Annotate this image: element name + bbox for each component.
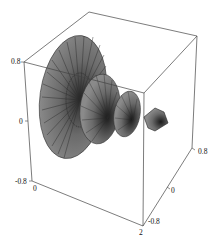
y-axis-label-mid: 0 (171, 186, 175, 195)
y-axis-label-top: 0.8 (198, 147, 208, 156)
y-axis-label-bottom: -0.8 (148, 217, 160, 226)
surface-discs (32, 31, 168, 163)
z-axis-label-bottom: -0.8 (15, 177, 27, 186)
x-axis-label-start: 0 (33, 184, 37, 193)
surface-plot-3d[interactable]: 0.8 0 -0.8 0 2 0.8 0 -0.8 (0, 0, 215, 239)
disc-4 (144, 108, 168, 131)
x-axis-label-end: 2 (139, 228, 143, 237)
z-axis-label-top: 0.8 (11, 57, 21, 66)
z-axis-label-mid: 0 (19, 117, 23, 126)
